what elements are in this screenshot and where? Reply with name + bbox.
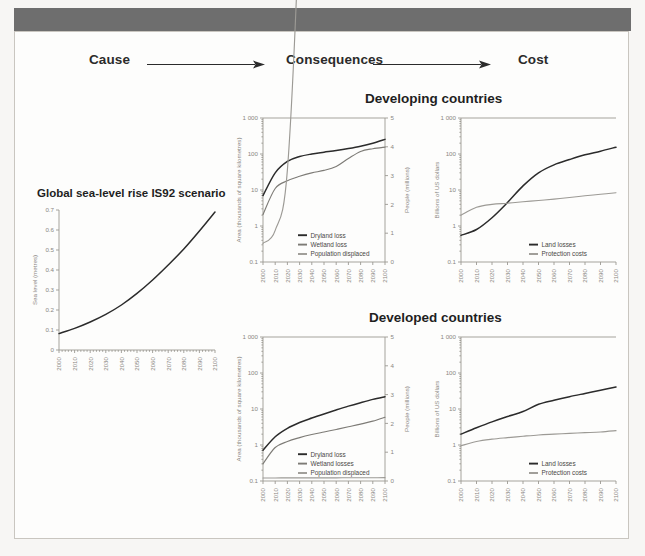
x-tick-label: 2050 xyxy=(320,487,327,501)
legend-label-0: Land losses xyxy=(542,460,576,467)
x-tick-label: 2070 xyxy=(566,268,573,282)
y-tick-label-right: 4 xyxy=(391,143,395,150)
y-axis-title: Billions of US dollars xyxy=(433,381,440,438)
x-tick-label: 2000 xyxy=(457,487,464,501)
chart-developing-cost: 0.11101001 00020002010202020302040205020… xyxy=(421,104,626,316)
y-tick-label-right: 0 xyxy=(391,258,395,265)
plot-area xyxy=(461,118,616,262)
y-tick-label-right: 1 xyxy=(391,448,395,455)
x-tick-label: 2070 xyxy=(345,487,352,501)
x-tick-label: 2100 xyxy=(612,268,619,282)
x-tick-label: 2020 xyxy=(488,487,495,501)
y-tick-label-right: 3 xyxy=(391,172,395,179)
y-tick-label: 1 000 xyxy=(243,333,259,340)
arrow-right-icon-2 xyxy=(373,60,491,69)
figure-page: Cause Consequences Cost Developing count… xyxy=(0,0,645,556)
y-tick-label: 0.3 xyxy=(45,286,54,293)
y-tick-label: 100 xyxy=(248,369,259,376)
y-tick-label: 1 000 xyxy=(441,333,457,340)
chart-title-sea-level: Global sea-level rise IS92 scenario xyxy=(37,187,226,199)
x-tick-label: 2060 xyxy=(550,268,557,282)
x-tick-label: 2080 xyxy=(357,487,364,501)
y-tick-label-right: 1 xyxy=(391,229,395,236)
x-tick-label: 2090 xyxy=(369,487,376,501)
x-tick-label: 2040 xyxy=(519,487,526,501)
y-tick-label: 0.1 xyxy=(447,477,456,484)
plot-area xyxy=(461,337,616,481)
x-tick-label: 2080 xyxy=(581,268,588,282)
arrow-right-icon-1 xyxy=(147,60,265,69)
flow-label-cause: Cause xyxy=(89,52,130,67)
y-tick-label-right: 5 xyxy=(391,333,395,340)
x-tick-label: 2100 xyxy=(612,487,619,501)
legend-label-0: Dryland loss xyxy=(311,451,346,459)
x-tick-label: 2030 xyxy=(504,268,511,282)
y-axis-title: Area (thousands of square kilometres) xyxy=(235,357,242,462)
y-tick-label: 1 000 xyxy=(243,114,259,121)
y-tick-label: 1 xyxy=(255,222,259,229)
x-tick-label: 2050 xyxy=(320,268,327,282)
plot-area xyxy=(59,210,215,350)
x-tick-label: 2020 xyxy=(488,268,495,282)
y-axis-title: Billions of US dollars xyxy=(433,162,440,219)
chart-developing-area: 0.11101001 00001234520002010202020302040… xyxy=(223,104,419,316)
y-axis-title: Sea level (metres) xyxy=(31,255,38,305)
y-tick-label: 1 000 xyxy=(441,114,457,121)
y-tick-label: 1 xyxy=(255,441,259,448)
chart-sea-level-rise: 00.10.20.30.40.50.60.7200020102020203020… xyxy=(23,202,223,402)
y-tick-label-right: 2 xyxy=(391,201,395,208)
x-tick-label: 2010 xyxy=(71,356,78,370)
x-tick-label: 2010 xyxy=(272,487,279,501)
y-tick-label: 0.1 xyxy=(249,258,258,265)
x-tick-label: 2100 xyxy=(381,268,388,282)
x-tick-label: 2020 xyxy=(284,268,291,282)
y-tick-label: 0.6 xyxy=(45,226,54,233)
y-tick-label: 10 xyxy=(449,405,456,412)
x-tick-label: 2090 xyxy=(196,356,203,370)
x-tick-label: 2000 xyxy=(457,268,464,282)
x-tick-label: 2050 xyxy=(133,356,140,370)
y-tick-label: 10 xyxy=(449,186,456,193)
legend-label-2: Population displaced xyxy=(311,469,370,477)
y-tick-label-right: 2 xyxy=(391,420,395,427)
y-tick-label: 0.2 xyxy=(45,306,54,313)
y-tick-label: 100 xyxy=(446,369,457,376)
y-tick-label: 1 xyxy=(453,441,457,448)
legend-label-1: Wetland losses xyxy=(311,460,354,467)
x-tick-label: 2060 xyxy=(550,487,557,501)
x-tick-label: 2020 xyxy=(284,487,291,501)
y-tick-label: 0.5 xyxy=(45,246,54,253)
x-tick-label: 2100 xyxy=(381,487,388,501)
chart-developed-area: 0.11101001 00001234520002010202020302040… xyxy=(223,323,419,535)
x-tick-label: 2070 xyxy=(566,487,573,501)
x-tick-label: 2010 xyxy=(473,487,480,501)
x-tick-label: 2040 xyxy=(519,268,526,282)
y-axis-title-right: People (millions) xyxy=(403,386,410,432)
x-tick-label: 2010 xyxy=(272,268,279,282)
y-tick-label: 100 xyxy=(446,150,457,157)
x-tick-label: 2090 xyxy=(369,268,376,282)
x-tick-label: 2020 xyxy=(87,356,94,370)
y-tick-label: 0.1 xyxy=(45,326,54,333)
y-tick-label: 0.7 xyxy=(45,206,54,213)
x-tick-label: 2030 xyxy=(102,356,109,370)
x-tick-label: 2050 xyxy=(535,268,542,282)
header-band xyxy=(14,8,631,31)
legend-label-0: Land losses xyxy=(542,241,576,248)
x-tick-label: 2000 xyxy=(259,487,266,501)
x-tick-label: 2040 xyxy=(308,487,315,501)
legend-label-1: Wetland loss xyxy=(311,241,347,248)
y-tick-label-right: 3 xyxy=(391,391,395,398)
x-tick-label: 2080 xyxy=(357,268,364,282)
x-tick-label: 2060 xyxy=(333,268,340,282)
x-tick-label: 2070 xyxy=(345,268,352,282)
flow-label-cost: Cost xyxy=(518,52,548,67)
x-tick-label: 2080 xyxy=(581,487,588,501)
y-tick-label: 0.1 xyxy=(447,258,456,265)
legend-label-0: Dryland loss xyxy=(311,232,346,240)
y-axis-title-right: People (millions) xyxy=(403,167,410,213)
flow-label-consequences: Consequences xyxy=(286,52,383,67)
y-tick-label-right: 0 xyxy=(391,477,395,484)
x-tick-label: 2030 xyxy=(504,487,511,501)
y-tick-label-right: 5 xyxy=(391,114,395,121)
